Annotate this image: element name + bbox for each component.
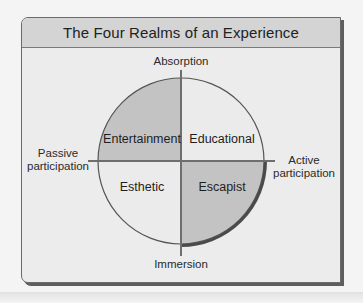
active-line1: Active	[273, 154, 335, 167]
axis-label-immersion: Immersion	[154, 258, 208, 271]
quadrant-label-esthetic: Esthetic	[120, 180, 164, 194]
axis-label-absorption: Absorption	[154, 55, 209, 68]
axis-label-active-participation: Active participation	[273, 154, 335, 180]
axis-label-passive-participation: Passive participation	[27, 147, 89, 173]
quadrant-escapist	[181, 161, 264, 244]
quadrant-esthetic	[98, 161, 181, 244]
quadrant-label-escapist: Escapist	[198, 180, 245, 194]
quadrant-educational	[181, 78, 264, 161]
passive-line1: Passive	[27, 147, 89, 160]
passive-line2: participation	[27, 160, 89, 173]
quadrant-entertainment	[98, 78, 181, 161]
quadrant-label-entertainment: Entertainment	[103, 132, 181, 146]
quadrant-label-educational: Educational	[189, 132, 254, 146]
active-line2: participation	[273, 167, 335, 180]
